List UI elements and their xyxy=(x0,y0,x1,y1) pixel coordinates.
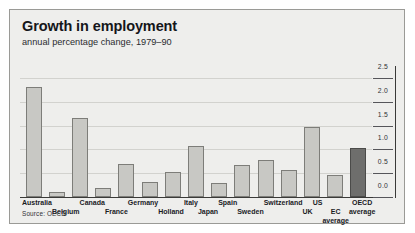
y-axis-tick-label: 1.5 xyxy=(373,111,393,118)
x-axis-label-slot: France xyxy=(105,208,128,225)
bar-slot xyxy=(161,66,184,197)
x-axis-label-slot: OECDaverage xyxy=(349,208,375,225)
bar[interactable] xyxy=(211,183,227,197)
bar[interactable] xyxy=(118,164,134,197)
x-axis-label-slot: US xyxy=(313,208,323,225)
x-axis-label-slot: Italy xyxy=(184,208,198,225)
chart-title: Growth in employment xyxy=(22,18,362,34)
y-axis-tick-label: 2.5 xyxy=(373,63,393,70)
x-axis-label-slot: Spain xyxy=(218,208,237,225)
y-axis-tick-mark xyxy=(373,197,393,198)
y-axis-tick-mark xyxy=(373,78,393,79)
bar-slot xyxy=(277,66,300,197)
y-axis-tick-mark xyxy=(373,173,393,174)
x-axis-label-slot: Canada xyxy=(80,208,105,225)
x-axis-label-slot: Switzerland xyxy=(264,208,303,225)
bar[interactable] xyxy=(188,146,204,197)
x-axis-label: Sweden xyxy=(237,208,263,225)
x-axis-label: Holland xyxy=(158,208,184,225)
bar[interactable] xyxy=(234,165,250,197)
bar-slot xyxy=(115,66,138,197)
bar-slot xyxy=(45,66,68,197)
x-axis-label-row-bottom: AustraliaBelgiumCanadaFranceGermanyHolla… xyxy=(20,208,372,225)
bar-slot xyxy=(22,66,45,197)
source-note: Source: OECD xyxy=(22,210,66,217)
y-axis-tick-label: 2.0 xyxy=(373,87,393,94)
bar-slot xyxy=(324,66,347,197)
x-axis-label-slot: Japan xyxy=(198,208,218,225)
bar-slot xyxy=(254,66,277,197)
bar-slot xyxy=(208,66,231,197)
bar-series xyxy=(20,66,372,197)
x-axis-labels: AustraliaBelgiumCanadaFranceGermanyHolla… xyxy=(20,199,372,229)
y-axis-tick-label: 0.5 xyxy=(373,158,393,165)
x-axis-label-slot: Sweden xyxy=(237,208,263,225)
bar[interactable] xyxy=(95,188,111,197)
x-axis-label-slot: ECaverage xyxy=(322,208,348,225)
bar[interactable] xyxy=(350,148,366,197)
bar[interactable] xyxy=(327,175,343,197)
bar[interactable] xyxy=(26,87,42,197)
x-axis-label-slot: Holland xyxy=(158,208,184,225)
bar-slot xyxy=(138,66,161,197)
x-axis-baseline xyxy=(20,197,386,198)
plot-area xyxy=(20,66,372,198)
x-axis-label-line2: average xyxy=(322,217,348,226)
y-axis-tick-mark xyxy=(373,102,393,103)
x-axis-label-slot: UK xyxy=(303,208,313,225)
bar-slot xyxy=(92,66,115,197)
chart-figure: Growth in employment annual percentage c… xyxy=(9,9,405,224)
x-axis-label: France xyxy=(105,208,128,225)
y-axis-tick-label: 0.0 xyxy=(373,182,393,189)
bar-slot xyxy=(184,66,207,197)
bar-slot xyxy=(300,66,323,197)
chart-header: Growth in employment annual percentage c… xyxy=(22,18,362,48)
bar[interactable] xyxy=(72,118,88,197)
bar[interactable] xyxy=(304,127,320,197)
chart-subtitle: annual percentage change, 1979–90 xyxy=(22,36,362,48)
bar[interactable] xyxy=(142,182,158,197)
x-axis-label: UK xyxy=(303,208,313,225)
bar-slot xyxy=(347,66,370,197)
y-axis-tick-mark xyxy=(373,149,393,150)
bar[interactable] xyxy=(258,160,274,197)
bar[interactable] xyxy=(165,172,181,197)
bar-slot xyxy=(68,66,91,197)
y-axis-spine xyxy=(395,66,396,198)
y-axis-tick-mark xyxy=(373,126,393,127)
y-axis: 0.00.51.01.52.02.5 xyxy=(372,66,406,198)
x-axis-label: ECaverage xyxy=(322,208,348,225)
y-axis-tick-label: 1.0 xyxy=(373,134,393,141)
bar-slot xyxy=(231,66,254,197)
x-axis-label-slot: Germany xyxy=(128,208,158,225)
x-axis-label: Japan xyxy=(198,208,218,225)
bar[interactable] xyxy=(281,170,297,197)
